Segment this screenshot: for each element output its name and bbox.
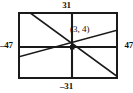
line-descending (29, 12, 118, 77)
line-ascending (18, 30, 118, 57)
window-xmin-label: –47 (0, 40, 18, 50)
window-ymin-label: –31 (0, 81, 133, 91)
window-ymax-label: 31 (0, 0, 133, 10)
plot-canvas (18, 12, 118, 79)
intersection-point-label: (3, 4) (70, 24, 90, 34)
window-xmax-label: 47 (118, 40, 133, 50)
intersection-point-marker (70, 45, 75, 50)
graph-figure: 31 –47 47 –31 (3, 4) (0, 0, 133, 93)
